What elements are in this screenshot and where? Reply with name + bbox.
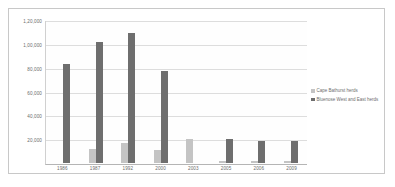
- y-axis-tick-label: 20,000: [27, 138, 42, 143]
- x-axis-tick-label: 2000: [144, 166, 177, 171]
- bar: [258, 141, 265, 163]
- legend-item[interactable]: Cape Bathurst herds: [311, 88, 393, 94]
- bar: [161, 71, 168, 163]
- legend-label: Bluenose West and East herds: [317, 97, 379, 103]
- bar: [251, 161, 258, 163]
- bar-group: [210, 21, 243, 163]
- y-axis-tick-label: 60,000: [27, 90, 42, 95]
- y-axis-tick-label: 80,000: [27, 66, 42, 71]
- bars-layer: [47, 21, 307, 163]
- bar: [219, 161, 226, 163]
- bar: [89, 149, 96, 163]
- x-axis-tick-label: 1987: [79, 166, 112, 171]
- y-axis-tick-label: 1,20,000: [23, 19, 42, 24]
- bar: [186, 139, 193, 163]
- x-axis-tick-label: 2003: [177, 166, 210, 171]
- x-axis-tick-label: 1986: [46, 166, 79, 171]
- x-axis: 19861987199220002003200520062009: [46, 166, 308, 171]
- legend-color-swatch: [311, 89, 315, 93]
- bar: [284, 161, 291, 163]
- bar: [291, 141, 298, 163]
- bar: [63, 64, 70, 163]
- x-axis-tick-label: 1992: [112, 166, 145, 171]
- x-axis-tick-label: 2009: [275, 166, 308, 171]
- legend-label: Cape Bathurst herds: [317, 88, 358, 94]
- chart-legend: Cape Bathurst herdsBluenose West and Eas…: [311, 88, 393, 105]
- bar-group: [112, 21, 145, 163]
- bar-group: [275, 21, 308, 163]
- plot-area: 20,00040,00060,00080,0001,00,0001,20,000: [45, 21, 307, 165]
- bar-group: [47, 21, 80, 163]
- bar: [121, 143, 128, 163]
- x-axis-tick-label: 2005: [210, 166, 243, 171]
- bar: [128, 33, 135, 163]
- y-axis-tick-label: 40,000: [27, 114, 42, 119]
- x-axis-tick-label: 2006: [243, 166, 276, 171]
- bar: [226, 139, 233, 163]
- bar: [96, 42, 103, 163]
- bar-group: [145, 21, 178, 163]
- chart-container: 20,00040,00060,00080,0001,00,0001,20,000…: [8, 8, 385, 174]
- y-axis-tick-label: 1,00,000: [23, 42, 42, 47]
- bar-group: [177, 21, 210, 163]
- bar: [154, 150, 161, 163]
- bar-group: [80, 21, 113, 163]
- bar-group: [242, 21, 275, 163]
- legend-item[interactable]: Bluenose West and East herds: [311, 97, 393, 103]
- legend-color-swatch: [311, 98, 315, 102]
